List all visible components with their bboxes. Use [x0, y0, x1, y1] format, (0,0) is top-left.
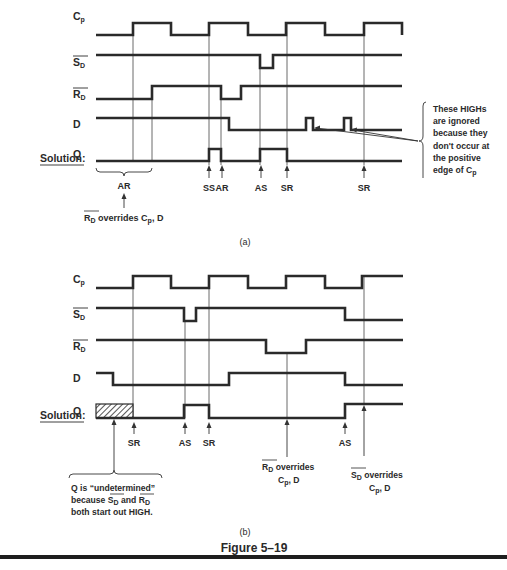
undetermined-note: Q is “undetermined” because SD and RD bo…: [71, 483, 155, 517]
signal-label-sd-bar: SD: [73, 308, 85, 321]
svg-text:both start out HIGH.: both start out HIGH.: [71, 507, 153, 517]
arrow-head-icon: [362, 165, 367, 171]
caption-a: (a): [240, 237, 251, 247]
waveform-cp: [96, 23, 402, 35]
waveform-q: [96, 404, 403, 418]
svg-text:RD overrides: RD overrides: [262, 462, 315, 473]
figure-title: Figure 5–19: [221, 541, 288, 555]
solution-label-b: Solution:: [40, 409, 86, 421]
event-label: SR: [128, 438, 141, 448]
signal-label-sd-bar: SD: [73, 56, 85, 69]
signal-label-rd-bar: RD: [73, 88, 86, 101]
event-label: SR: [358, 183, 371, 193]
waveform-rd-bar: [96, 86, 402, 99]
arrow-head-icon: [343, 422, 348, 428]
arrow-head-icon: [285, 165, 290, 171]
rd-overrides-note-b: RD overrides Cp, D: [262, 460, 315, 487]
guide-lines-b: [133, 276, 364, 418]
note-line: don't occur at: [433, 141, 490, 151]
arrow-head-icon: [285, 419, 290, 425]
waveform-d: [96, 373, 403, 385]
guide-lines-a: [133, 23, 364, 165]
arrow-head-icon: [122, 193, 127, 199]
note-line: edge of Cp: [433, 165, 476, 177]
waveform-sd-bar: [96, 308, 403, 321]
waveform-cp: [96, 276, 403, 288]
solution-label-a: Solution:: [40, 152, 86, 164]
event-marker-sr: SR: [281, 165, 294, 193]
waveform-q: [96, 149, 402, 161]
event-marker-as: AS: [255, 165, 268, 193]
timing-diagram-figure: CpSDRDDQ Solution: SSARASSRSR AR RD over…: [0, 0, 507, 570]
signal-labels-a: CpSDRDDQ: [73, 10, 88, 160]
waveform-rd-bar: [96, 340, 403, 353]
event-marker-sr: SR: [128, 422, 141, 448]
svg-text:Q is “undetermined”: Q is “undetermined”: [71, 483, 155, 493]
arrow-head-icon: [259, 165, 264, 171]
event-label: SR: [203, 438, 216, 448]
note-line: are ignored: [433, 116, 480, 126]
rd-overrides-note-a: RD overrides Cp, D: [84, 211, 164, 225]
timing-diagram-a: CpSDRDDQ Solution: SSARASSRSR AR RD over…: [40, 10, 490, 247]
event-marker-as: AS: [179, 422, 192, 448]
event-markers-a: SSARASSRSR: [203, 165, 371, 193]
svg-text:SD overrides: SD overrides: [351, 470, 403, 481]
ignored-highs-note: These HIGHsare ignoredbecause theydon't …: [433, 104, 490, 177]
undetermined-brace: [69, 470, 162, 478]
event-label: SS: [203, 183, 215, 193]
ar-brace: [96, 168, 152, 176]
event-markers-b: SRASSRAS: [128, 422, 352, 448]
event-marker-as: AS: [339, 422, 352, 448]
signal-label-d: D: [73, 372, 81, 384]
arrow-head-icon: [220, 165, 225, 171]
arrow-head-icon: [132, 422, 137, 428]
note-line: These HIGHs: [433, 104, 487, 114]
svg-text:Cp, D: Cp, D: [278, 475, 299, 487]
event-label: AS: [339, 438, 352, 448]
caption-b: (b): [240, 527, 251, 537]
undetermined-hatch: [96, 404, 133, 418]
arrow-head-icon: [207, 165, 212, 171]
arrow-head-icon: [112, 419, 117, 425]
event-marker-sr: SR: [358, 165, 371, 193]
event-label: AS: [179, 438, 192, 448]
signal-label-cp: Cp: [73, 273, 85, 287]
event-marker-ar: AR: [216, 165, 229, 193]
svg-text:RD overrides Cp, D: RD overrides Cp, D: [84, 213, 164, 225]
signal-label-d: D: [73, 118, 81, 130]
svg-text:Cp, D: Cp, D: [369, 483, 390, 495]
event-marker-sr: SR: [203, 422, 216, 448]
svg-text:because SD and RD: because SD and RD: [71, 495, 150, 506]
signal-labels-b: CpSDRDDQ: [73, 273, 88, 417]
callout-pointer-2: [353, 130, 418, 141]
event-label: SR: [281, 183, 294, 193]
timing-diagram-b: CpSDRDDQ Solution: SRASSRAS Q is “undete…: [40, 273, 403, 537]
arrow-head-icon: [362, 405, 367, 411]
bottom-rule: [0, 555, 507, 559]
note-line: because they: [433, 128, 488, 138]
waveforms-b: [96, 276, 403, 418]
waveform-sd-bar: [96, 55, 402, 68]
event-label: AR: [216, 183, 229, 193]
note-line: the positive: [433, 153, 481, 163]
sd-overrides-note-b: SD overrides Cp, D: [351, 468, 403, 495]
signal-label-rd-bar: RD: [73, 340, 86, 353]
arrow-head-icon: [183, 422, 188, 428]
ar-brace-label: AR: [118, 181, 131, 191]
waveforms-a: [96, 23, 402, 161]
ignored-highs-brace: [419, 102, 426, 178]
event-label: AS: [255, 183, 268, 193]
event-marker-ss: SS: [203, 165, 215, 193]
signal-label-cp: Cp: [73, 10, 85, 24]
arrow-head-icon: [207, 422, 212, 428]
